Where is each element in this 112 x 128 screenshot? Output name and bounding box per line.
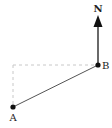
- point-b: [95, 62, 100, 67]
- point-a-label: A: [8, 112, 17, 123]
- north-label: N: [93, 3, 102, 14]
- segment-ab: [13, 65, 98, 107]
- point-b-label: B: [102, 60, 109, 71]
- bearing-diagram: N B A: [0, 0, 112, 128]
- point-a: [10, 104, 15, 109]
- north-arrow-icon: [94, 15, 103, 27]
